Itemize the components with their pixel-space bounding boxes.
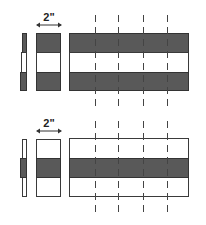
side-profile-center-dark (20, 158, 27, 178)
cut-line (95, 121, 96, 216)
side-profile-top-dark (22, 33, 27, 53)
cut-line (167, 121, 168, 216)
dimension-arrow-icon (36, 128, 62, 134)
strip-center-dark (69, 158, 189, 178)
cut-line (95, 15, 96, 110)
cut-line (143, 121, 144, 216)
strip-top-dark (69, 33, 189, 53)
cut-line (118, 15, 119, 110)
cut-line (118, 121, 119, 216)
cut-line (167, 15, 168, 110)
section-bottom-dark (36, 72, 61, 91)
strip-middle-white (69, 52, 189, 73)
section-top-dark (36, 33, 61, 53)
dimension-arrow-icon (36, 22, 62, 28)
side-profile-bottom-dark (20, 72, 27, 91)
cut-line (143, 15, 144, 110)
section-middle-white (36, 52, 61, 73)
strip-bottom-dark (69, 72, 189, 91)
side-profile-middle-white (21, 52, 27, 73)
section-center-dark (36, 158, 61, 178)
